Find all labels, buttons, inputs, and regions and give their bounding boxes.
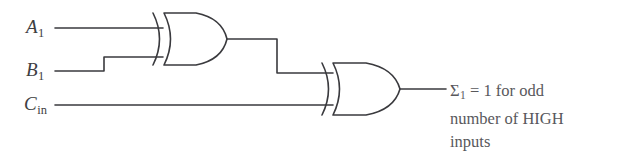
xor-gate-2-outer-arc xyxy=(322,63,329,115)
output-annotation-line-3: inputs xyxy=(450,130,618,153)
input-letter-a: A xyxy=(26,16,38,37)
input-letter-b: B xyxy=(26,59,38,80)
input-label-cin: Cin xyxy=(24,94,47,116)
input-label-b1: B1 xyxy=(26,60,44,82)
wire-gate1-to-gate2 xyxy=(227,39,333,73)
logic-diagram-figure: A1 B1 Cin Σ1 = 1 for odd number of HIGH … xyxy=(0,0,620,168)
output-annotation-line-1: Σ1 = 1 for odd xyxy=(450,79,618,107)
xor-gate-2-body xyxy=(333,63,400,115)
sigma-symbol: Σ xyxy=(450,81,460,100)
output-annotation-line-2: number of HIGH xyxy=(450,107,618,130)
input-subscript-a: 1 xyxy=(38,26,44,40)
input-label-a1: A1 xyxy=(26,17,44,39)
input-letter-c: C xyxy=(24,93,37,114)
output-annotation: Σ1 = 1 for odd number of HIGH inputs xyxy=(450,79,618,153)
output-annotation-line-1-rest: = 1 for odd xyxy=(466,81,544,100)
input-subscript-b: 1 xyxy=(38,69,44,83)
xor-gate-1-body xyxy=(164,13,227,65)
input-subscript-in: in xyxy=(37,103,47,117)
wire-b1 xyxy=(55,57,163,71)
